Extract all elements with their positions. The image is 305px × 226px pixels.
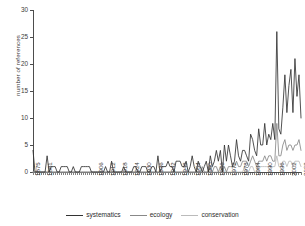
- x-axis-tick-label: 1948: [182, 162, 188, 176]
- legend-label: conservation: [201, 211, 238, 219]
- x-axis-tick-label: 2008: [303, 162, 305, 176]
- x-axis-tick-label: 1906: [98, 162, 104, 176]
- legend-swatch-icon: [130, 215, 147, 216]
- x-axis-tick-label: 1942: [170, 162, 176, 176]
- legend-item-ecology[interactable]: ecology: [130, 211, 173, 219]
- x-axis-tick-label: 1954: [195, 162, 201, 176]
- x-axis-tick-label: 1875: [35, 162, 41, 176]
- legend-swatch-icon: [181, 215, 198, 216]
- x-axis-tick-label: 1924: [134, 162, 140, 176]
- x-axis-tick-label: 1978: [243, 162, 249, 176]
- x-axis-tick-labels: 1875188119061912191819241930193619421948…: [0, 0, 305, 40]
- legend-item-systematics[interactable]: systematics: [66, 211, 120, 219]
- x-axis-tick-label: 1990: [267, 162, 273, 176]
- chart-legend: systematicsecologyconservation: [0, 207, 305, 223]
- x-axis-tick-label: 1960: [207, 162, 213, 176]
- x-axis-tick-label: 2002: [291, 162, 297, 176]
- series-line-systematics: [33, 32, 301, 172]
- x-axis-tick-label: 1966: [219, 162, 225, 176]
- x-axis-tick-label: 1984: [255, 162, 261, 176]
- legend-swatch-icon: [66, 215, 83, 216]
- x-axis-tick-label: 1881: [47, 162, 53, 176]
- x-axis-tick-label: 1972: [231, 162, 237, 176]
- plot-area: number of references 051015202530 187518…: [0, 0, 305, 205]
- x-axis-tick-label: 1930: [146, 162, 152, 176]
- x-axis-tick-label: 1996: [279, 162, 285, 176]
- x-axis-tick-label: 1936: [158, 162, 164, 176]
- chart-figure: number of references 051015202530 187518…: [0, 0, 305, 226]
- x-axis-tick-label: 1912: [110, 162, 116, 176]
- legend-label: systematics: [86, 211, 120, 219]
- legend-label: ecology: [150, 211, 173, 219]
- legend-item-conservation[interactable]: conservation: [181, 211, 238, 219]
- x-axis-tick-label: 1918: [122, 162, 128, 176]
